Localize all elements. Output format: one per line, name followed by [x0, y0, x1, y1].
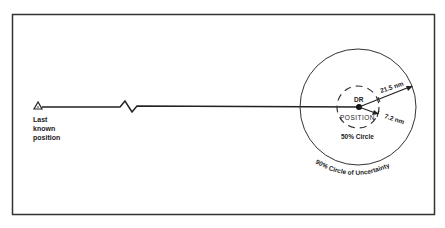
track-line [42, 101, 359, 112]
inner-circle-label: 50% Circle [341, 133, 374, 140]
inner-radius-label: 7.2 nm [384, 112, 406, 125]
start-label-1: Last [33, 116, 48, 123]
position-label: POSITION [340, 114, 375, 121]
last-known-position-icon [34, 102, 42, 109]
start-label-2: known [33, 125, 55, 132]
dr-uncertainty-diagram: Last known position DR POSITION 21.5 nm … [0, 0, 445, 228]
dr-label: DR [354, 96, 364, 103]
outer-radius-label: 21.5 nm [379, 80, 404, 94]
start-label-3: position [33, 134, 60, 142]
